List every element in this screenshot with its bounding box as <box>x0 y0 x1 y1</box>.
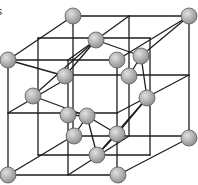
atom-r <box>110 167 126 183</box>
atom-e <box>109 52 125 68</box>
atom-f <box>133 48 149 64</box>
atom-h <box>121 68 137 84</box>
atom-o <box>181 130 197 146</box>
lattice-line <box>8 60 65 76</box>
atom-m <box>66 128 82 144</box>
atom-k <box>60 107 76 123</box>
atom-j <box>139 90 155 106</box>
lattice-line <box>141 16 189 56</box>
atom-i <box>25 88 41 104</box>
atom-q <box>0 167 16 183</box>
lattice-line <box>118 138 189 175</box>
crystal-lattice-diagram <box>0 0 198 185</box>
atom-g <box>57 68 73 84</box>
atom-a <box>65 8 81 24</box>
atom-d <box>0 52 16 68</box>
atom-n <box>109 126 125 142</box>
atom-l <box>79 108 95 124</box>
atom-c <box>88 32 104 48</box>
atom-b <box>181 8 197 24</box>
atom-p <box>89 147 105 163</box>
